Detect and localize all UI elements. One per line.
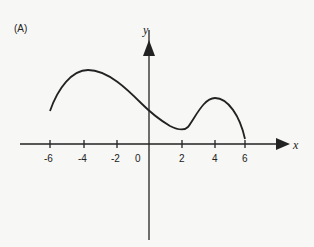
tick-label-2: 2	[179, 153, 185, 164]
tick-label-neg4: -4	[78, 153, 87, 164]
tick-label-neg6: -6	[44, 153, 53, 164]
tick-label-4: 4	[212, 153, 218, 164]
tick-label-6: 6	[242, 153, 248, 164]
origin-label: 0	[135, 153, 141, 164]
y-axis-label: y	[142, 23, 149, 37]
function-graph-figure: (A) y x -6 -4 -2 0 2 4 6	[0, 0, 314, 247]
chart-canvas: (A) y x -6 -4 -2 0 2 4 6	[0, 0, 314, 247]
y-axis-arrow-icon	[143, 40, 155, 56]
x-axis-arrow-icon	[276, 138, 290, 150]
function-curve	[50, 70, 245, 139]
tick-label-neg2: -2	[111, 153, 120, 164]
x-axis-label: x	[292, 138, 299, 152]
panel-label: (A)	[14, 23, 27, 34]
